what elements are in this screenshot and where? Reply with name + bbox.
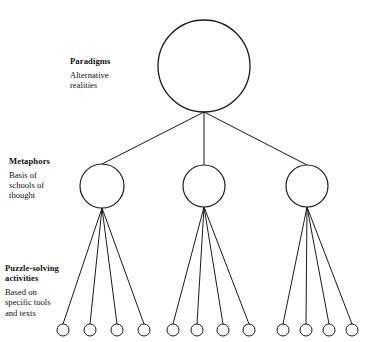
edge-metaphor-to-activity-10 (306, 207, 307, 324)
activity-node-6 (191, 324, 203, 336)
activity-node-9 (277, 324, 289, 336)
activity-node-5 (167, 324, 179, 336)
metaphor-node-3 (286, 165, 328, 207)
edge-metaphor-to-activity-12 (307, 207, 352, 324)
edge-metaphor-to-activity-7 (204, 207, 223, 324)
metaphor-nodes-group (80, 164, 328, 208)
edge-metaphor-to-activity-3 (102, 208, 117, 324)
activity-node-10 (300, 324, 312, 336)
level-label-metaphors-description: Basis of schools of thought (9, 170, 50, 200)
metaphor-node-1 (80, 164, 124, 208)
level-label-paradigms-description: Alternative realities (70, 70, 111, 90)
activity-node-8 (243, 324, 255, 336)
level-label-puzzle-solving-title: Puzzle-solving activities (5, 263, 59, 283)
root-to-metaphors-edges (102, 112, 307, 165)
level-label-metaphors-title: Metaphors (9, 156, 50, 166)
edge-metaphor-to-activity-4 (102, 208, 144, 324)
activity-node-2 (84, 324, 96, 336)
edge-metaphor-to-activity-6 (197, 207, 204, 324)
edge-metaphor-to-activity-8 (204, 207, 249, 324)
activity-node-3 (111, 324, 123, 336)
metaphors-to-activities-edges (63, 207, 352, 324)
level-label-paradigms-title: Paradigms (70, 56, 111, 66)
edge-metaphor-to-activity-11 (307, 207, 329, 324)
paradigm-node (158, 20, 250, 112)
activity-node-4 (138, 324, 150, 336)
metaphor-node-2 (183, 165, 225, 207)
level-label-metaphors: Metaphors Basis of schools of thought (9, 156, 50, 201)
activity-nodes-group (57, 324, 358, 336)
activity-node-7 (217, 324, 229, 336)
edge-paradigm-to-metaphor-3 (204, 112, 307, 165)
edge-paradigm-to-metaphor-1 (102, 112, 204, 164)
edge-metaphor-to-activity-9 (283, 207, 307, 324)
activity-node-11 (323, 324, 335, 336)
edge-metaphor-to-activity-5 (173, 207, 204, 324)
activity-node-1 (57, 324, 69, 336)
level-label-puzzle-solving-description: Based on specific tools and texts (5, 287, 59, 317)
level-label-puzzle-solving: Puzzle-solving activities Based on speci… (5, 263, 59, 318)
hierarchy-diagram: Paradigms Alternative realities Metaphor… (0, 0, 367, 342)
paradigm-node-group (158, 20, 250, 112)
activity-node-12 (346, 324, 358, 336)
level-label-paradigms: Paradigms Alternative realities (70, 56, 111, 90)
